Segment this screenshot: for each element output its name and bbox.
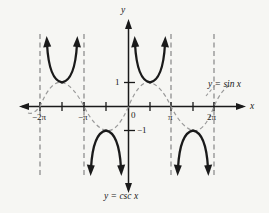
- csc-curve-label: y = csc x: [104, 192, 138, 202]
- x-axis-arrow-right: [236, 103, 246, 110]
- x-axis-arrow-left: [19, 103, 29, 110]
- csc-branch-down-left: [91, 131, 121, 169]
- csc-branch-up-left: [47, 44, 77, 83]
- x-tick-label-2pi: 2π: [207, 113, 216, 122]
- x-tick-label-neg-pi: −π: [78, 113, 88, 122]
- y-tick-label-neg-one: −1: [137, 126, 147, 135]
- csc-sine-graph-figure: y x −2π −π π 2π 1 −1 0 y = sin x y = csc…: [0, 0, 269, 213]
- x-tick-label-neg-2pi: −2π: [32, 113, 46, 122]
- origin-label: 0: [131, 111, 136, 120]
- x-axis-label: x: [250, 102, 254, 112]
- csc-branch-down-right: [178, 131, 208, 169]
- graph-canvas: [0, 0, 269, 213]
- csc-branch-up-right: [135, 44, 165, 83]
- y-tick-label-one: 1: [115, 78, 120, 87]
- y-axis-arrow-up: [125, 19, 132, 29]
- x-tick-label-pi: π: [168, 113, 173, 122]
- sine-curve-label: y = sin x: [208, 80, 241, 90]
- y-axis-label: y: [121, 6, 125, 16]
- x-axis: [19, 103, 246, 110]
